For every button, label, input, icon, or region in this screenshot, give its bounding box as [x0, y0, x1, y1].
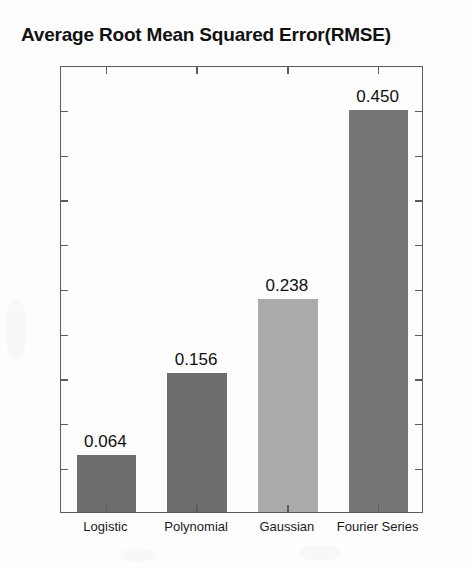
x-axis-tick-label: Fourier Series [337, 519, 419, 534]
y-axis-tick-right [415, 156, 422, 157]
bar [258, 299, 317, 512]
x-axis-tick-top [378, 67, 379, 74]
scan-artifact [300, 545, 340, 561]
y-axis-tick-right [415, 245, 422, 246]
bar-value-label: 0.064 [84, 432, 127, 452]
x-axis-tick-label: Gaussian [259, 519, 314, 534]
y-axis-tick-right [415, 111, 422, 112]
bar [167, 373, 226, 512]
bar [349, 110, 408, 512]
y-axis-tick-right [415, 290, 422, 291]
y-axis-tick [61, 335, 68, 336]
y-axis-tick [61, 290, 68, 291]
scan-artifact [120, 548, 156, 562]
y-axis-tick [61, 200, 68, 201]
y-axis-tick-right [415, 469, 422, 470]
y-axis-tick-right [415, 200, 422, 201]
y-axis-tick-right [415, 379, 422, 380]
x-axis-tick-label: Logistic [83, 519, 127, 534]
y-axis-tick [61, 469, 68, 470]
y-axis-tick-right [415, 335, 422, 336]
y-axis-tick [61, 424, 68, 425]
y-axis-tick [61, 111, 68, 112]
chart-figure: Average Root Mean Squared Error(RMSE) 00… [0, 0, 471, 570]
x-axis-tick [196, 505, 197, 512]
bar-value-label: 0.450 [356, 87, 399, 107]
bar-value-label: 0.156 [175, 350, 218, 370]
y-axis-tick [61, 379, 68, 380]
y-axis-tick [61, 245, 68, 246]
x-axis-tick [106, 505, 107, 512]
x-axis-tick-top [287, 67, 288, 74]
x-axis-tick-top [196, 67, 197, 74]
x-axis-tick [378, 505, 379, 512]
x-axis-tick-label: Polynomial [164, 519, 228, 534]
chart-title: Average Root Mean Squared Error(RMSE) [21, 24, 391, 46]
scan-artifact [5, 300, 27, 360]
bar [77, 455, 136, 512]
x-axis-tick-top [106, 67, 107, 74]
y-axis-tick [61, 156, 68, 157]
bar-value-label: 0.238 [266, 276, 309, 296]
x-axis-tick [287, 505, 288, 512]
y-axis-tick-right [415, 424, 422, 425]
